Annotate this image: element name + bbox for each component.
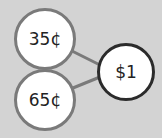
part-label-top: 35¢ xyxy=(29,29,61,49)
whole-label: $1 xyxy=(115,62,137,82)
whole-node: $1 xyxy=(97,43,155,101)
part-label-bottom: 65¢ xyxy=(29,90,61,110)
part-node-top: 35¢ xyxy=(14,8,76,70)
part-node-bottom: 65¢ xyxy=(14,69,76,131)
